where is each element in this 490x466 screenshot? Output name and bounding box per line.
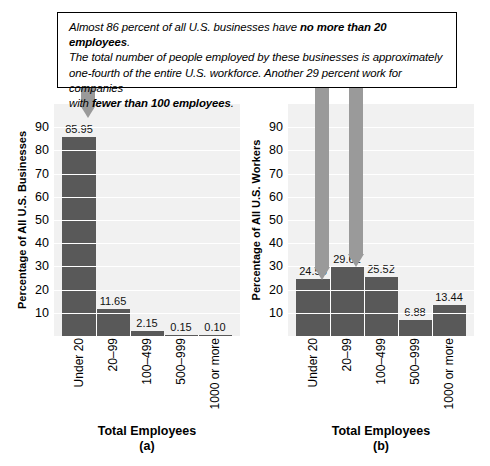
x-axis-title-workers: Total Employees (b) — [288, 424, 474, 454]
y-tick-businesses-50: 50 — [35, 214, 49, 226]
x-tick-workers-0: Under 20 — [306, 338, 320, 422]
y-tick-businesses-60: 60 — [35, 191, 49, 203]
chart-caption-a: (a) — [54, 439, 240, 454]
x-tick-label: Under 20 — [72, 338, 86, 422]
bar-workers-500–999 — [398, 320, 432, 336]
gridline-businesses-70 — [54, 174, 240, 175]
gridline-businesses-10 — [54, 313, 240, 314]
y-tick-workers-10: 10 — [269, 307, 283, 319]
bar-businesses-100–499 — [130, 331, 164, 336]
y-axis-ticks-businesses: 908070605040302010 — [30, 104, 52, 336]
y-tick-businesses-20: 20 — [35, 284, 49, 296]
bar-businesses-500–999 — [164, 335, 198, 337]
gridline-workers-10 — [288, 313, 474, 314]
y-tick-workers-50: 50 — [269, 214, 283, 226]
y-tick-workers-40: 40 — [269, 237, 283, 249]
callout-line-4-period: . — [231, 97, 234, 109]
y-tick-workers-80: 80 — [269, 144, 283, 156]
x-tick-workers-4: 1000 or more — [442, 338, 456, 422]
gridline-workers-20 — [288, 290, 474, 291]
gridline-businesses-30 — [54, 266, 240, 267]
bar-workers-100–499 — [364, 277, 398, 336]
x-axis-title-businesses: Total Employees (a) — [54, 424, 240, 454]
y-axis-label-workers-text: Percentage of All U.S. Workers — [248, 104, 264, 336]
x-tick-label: 20–99 — [340, 338, 354, 422]
gridline-businesses-60 — [54, 197, 240, 198]
x-tick-businesses-2: 100–499 — [140, 338, 154, 422]
x-tick-label: 1000 or more — [208, 338, 222, 422]
y-tick-businesses-80: 80 — [35, 144, 49, 156]
bar-value-label: 85.95 — [65, 124, 93, 135]
arrow-to-workers-under-20 — [315, 88, 329, 280]
x-tick-businesses-4: 1000 or more — [208, 338, 222, 422]
bar-value-label: 0.15 — [170, 322, 191, 333]
x-tick-label: 20–99 — [106, 338, 120, 422]
y-tick-businesses-10: 10 — [35, 307, 49, 319]
x-axis-title-businesses-text: Total Employees — [98, 424, 196, 438]
bar-workers-under-20 — [296, 279, 330, 336]
gridline-businesses-50 — [54, 220, 240, 221]
y-tick-businesses-30: 30 — [35, 260, 49, 272]
x-tick-label: 500–999 — [408, 338, 422, 422]
callout-box: Almost 86 percent of all U.S. businesses… — [57, 12, 457, 88]
bar-value-label: 0.10 — [204, 322, 225, 333]
x-axis-ticks-workers: Under 2020–99100–499500–9991000 or more — [288, 338, 474, 422]
gridline-businesses-90 — [54, 127, 240, 128]
x-tick-workers-1: 20–99 — [340, 338, 354, 422]
y-tick-workers-70: 70 — [269, 168, 283, 180]
x-tick-label: Under 20 — [306, 338, 320, 422]
callout-line-4-text: with — [69, 97, 92, 109]
y-tick-businesses-70: 70 — [35, 168, 49, 180]
bar-value-label: 2.15 — [136, 318, 157, 329]
bar-businesses-1000-or-more — [198, 335, 232, 337]
callout-emphasis-100-employees: fewer than 100 employees — [92, 97, 231, 109]
x-tick-label: 100–499 — [374, 338, 388, 422]
x-tick-businesses-0: Under 20 — [72, 338, 86, 422]
x-axis-ticks-businesses: Under 2020–99100–499500–9991000 or more — [54, 338, 240, 422]
gridline-businesses-20 — [54, 290, 240, 291]
y-axis-label-businesses-text: Percentage of All U.S. Businesses — [14, 104, 30, 336]
x-tick-label: 1000 or more — [442, 338, 456, 422]
bar-value-label: 13.44 — [435, 292, 463, 303]
x-tick-businesses-1: 20–99 — [106, 338, 120, 422]
x-tick-workers-3: 500–999 — [408, 338, 422, 422]
x-tick-businesses-3: 500–999 — [174, 338, 188, 422]
y-tick-businesses-40: 40 — [35, 237, 49, 249]
y-tick-workers-20: 20 — [269, 284, 283, 296]
y-axis-label-businesses: Percentage of All U.S. Businesses — [14, 104, 30, 336]
callout-line-2: The total number of people employed by t… — [69, 50, 445, 65]
callout-line-1-period: . — [127, 36, 130, 48]
callout-line-4: with fewer than 100 employees. — [69, 96, 445, 111]
y-axis-label-workers: Percentage of All U.S. Workers — [248, 104, 264, 336]
y-tick-workers-30: 30 — [269, 260, 283, 272]
arrow-to-workers-20-99 — [349, 88, 363, 268]
gridline-businesses-80 — [54, 150, 240, 151]
x-tick-label: 100–499 — [140, 338, 154, 422]
gridline-businesses-40 — [54, 243, 240, 244]
bar-workers-20–99 — [330, 267, 364, 336]
y-tick-workers-90: 90 — [269, 121, 283, 133]
y-tick-workers-60: 60 — [269, 191, 283, 203]
callout-line-1-text: Almost 86 percent of all U.S. businesses… — [69, 21, 300, 33]
plot-area-businesses: 85.9511.652.150.150.10 — [54, 104, 240, 336]
y-tick-businesses-90: 90 — [35, 121, 49, 133]
callout-line-3: one-fourth of the entire U.S. workforce.… — [69, 66, 445, 96]
x-axis-title-workers-text: Total Employees — [332, 424, 430, 438]
callout-line-1: Almost 86 percent of all U.S. businesses… — [69, 20, 445, 50]
bar-businesses-under-20 — [62, 137, 96, 336]
chart-caption-b: (b) — [288, 439, 474, 454]
y-axis-ticks-workers: 908070605040302010 — [264, 104, 286, 336]
bar-value-label: 11.65 — [100, 296, 127, 307]
bar-workers-1000-or-more — [432, 305, 466, 336]
x-tick-label: 500–999 — [174, 338, 188, 422]
x-tick-workers-2: 100–499 — [374, 338, 388, 422]
